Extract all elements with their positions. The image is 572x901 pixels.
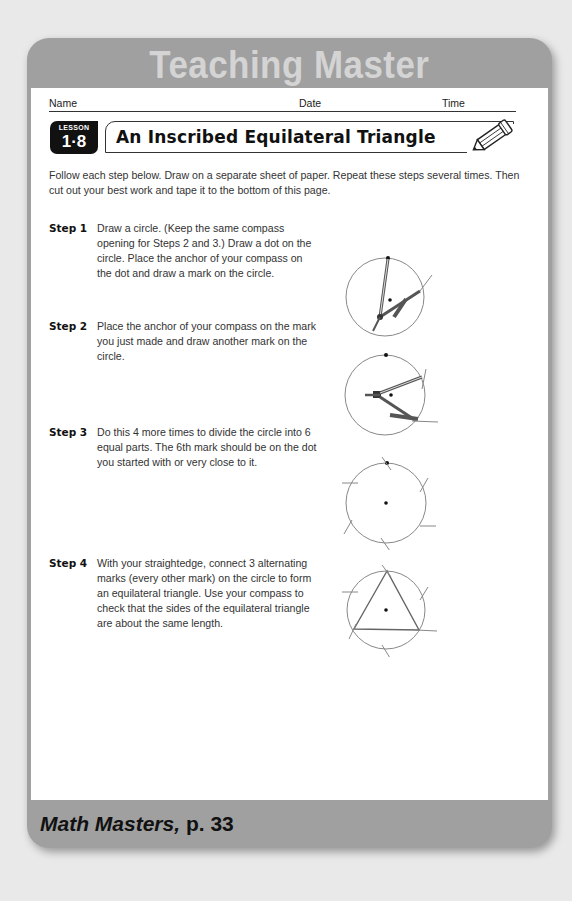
step-1-text: Draw a circle. (Keep the same compass op… bbox=[97, 221, 317, 281]
card-header: Teaching Master bbox=[27, 38, 552, 88]
step-1-label: Step 1 bbox=[49, 221, 87, 236]
step-2-compass-figure bbox=[340, 347, 440, 447]
step-4-text: With your straightedge, connect 3 altern… bbox=[97, 556, 317, 631]
step-2-label: Step 2 bbox=[49, 319, 87, 334]
step-4: Step 4 With your straightedge, connect 3… bbox=[49, 556, 349, 631]
date-label: Date bbox=[299, 97, 321, 109]
lesson-badge-label: LESSON bbox=[50, 121, 98, 132]
step-3-six-marks-figure bbox=[340, 450, 440, 550]
book-title: Math Masters, bbox=[40, 812, 180, 835]
worksheet-page: Name Date Time LESSON 1·8 An Inscribed E… bbox=[31, 88, 548, 800]
step-4-triangle-figure bbox=[340, 557, 440, 657]
lesson-title: An Inscribed Equilateral Triangle bbox=[116, 127, 436, 147]
lesson-number: 1·8 bbox=[50, 132, 98, 151]
step-3-text: Do this 4 more times to divide the circl… bbox=[97, 425, 317, 470]
teaching-master-card: Teaching Master Name Date Time LESSON 1·… bbox=[27, 38, 552, 848]
name-date-time-row: Name Date Time bbox=[49, 93, 516, 112]
step-3-label: Step 3 bbox=[49, 425, 87, 440]
lesson-badge: LESSON 1·8 bbox=[50, 121, 98, 154]
pencil-icon bbox=[467, 116, 517, 158]
page-reference: p. 33 bbox=[180, 812, 234, 835]
lesson-title-box: An Inscribed Equilateral Triangle bbox=[105, 121, 514, 153]
card-footer: Math Masters, p. 33 bbox=[27, 800, 552, 848]
name-label: Name bbox=[49, 97, 77, 109]
header-title: Teaching Master bbox=[149, 46, 429, 84]
step-4-label: Step 4 bbox=[49, 556, 87, 571]
time-label: Time bbox=[442, 97, 465, 109]
source-reference: Math Masters, p. 33 bbox=[40, 812, 234, 836]
step-2-text: Place the anchor of your compass on the … bbox=[97, 319, 317, 364]
step-2: Step 2 Place the anchor of your compass … bbox=[49, 319, 349, 364]
step-1-compass-figure bbox=[340, 251, 440, 351]
step-1: Step 1 Draw a circle. (Keep the same com… bbox=[49, 221, 349, 281]
step-3: Step 3 Do this 4 more times to divide th… bbox=[49, 425, 349, 470]
instructions-intro: Follow each step below. Draw on a separa… bbox=[49, 168, 529, 198]
